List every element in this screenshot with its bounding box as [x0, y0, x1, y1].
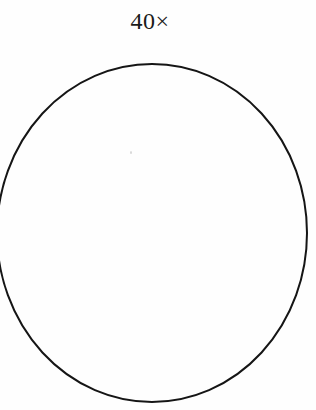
- circle-outline: [0, 64, 307, 402]
- scan-speck-icon: [130, 151, 132, 154]
- circle-figure: [0, 0, 316, 410]
- figure-page: 40×: [0, 0, 316, 410]
